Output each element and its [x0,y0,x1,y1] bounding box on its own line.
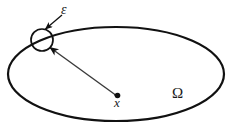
position-vector-label: x [114,96,120,109]
figure-canvas [0,0,233,131]
math-figure: ε Ω x [0,0,233,131]
omega-domain-label: Ω [172,86,183,101]
position-vector-letter: x [114,95,120,110]
epsilon-pointer-arrow-icon [46,15,63,29]
position-vector-line [50,48,117,97]
epsilon-label: ε [61,3,67,17]
vector-label-wrap: x [114,96,120,109]
